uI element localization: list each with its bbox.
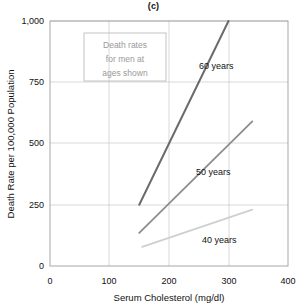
line-chart-plot: Death rates for men at ages shown 60 yea… (0, 0, 307, 308)
annotation-line-2: for men at (106, 54, 145, 64)
series-lines (139, 21, 252, 247)
series-label-40-years: 40 years (202, 235, 237, 245)
chart-figure: (c) Death rates for men at ages shown (0, 0, 307, 308)
ytick-label-250: 250 (29, 200, 44, 210)
series-label-60-years: 60 years (199, 61, 234, 71)
xtick-label-300: 300 (221, 276, 236, 286)
series-line-60-years (139, 21, 228, 205)
xtick-label-200: 200 (161, 276, 176, 286)
annotation-line-1: Death rates (103, 40, 147, 50)
ytick-label-750: 750 (29, 77, 44, 87)
annotation-line-3: ages shown (102, 68, 148, 78)
x-axis-title: Serum Cholesterol (mg/dl) (114, 292, 225, 303)
series-label-50-years: 50 years (196, 167, 231, 177)
ytick-label-500: 500 (29, 138, 44, 148)
xtick-label-100: 100 (101, 276, 116, 286)
xtick-label-0: 0 (47, 276, 52, 286)
y-axis-title: Death Rate per 100,000 Population (5, 70, 16, 219)
ytick-label-0: 0 (39, 261, 44, 271)
ytick-label-1000: 1,000 (21, 16, 44, 26)
xtick-label-400: 400 (280, 276, 295, 286)
